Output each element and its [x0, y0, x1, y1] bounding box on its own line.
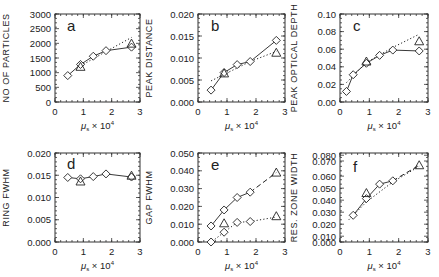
y-tick-label: 0.040 [312, 195, 336, 206]
y-tick-label: 0.020 [170, 9, 194, 20]
y-tick-label: 0.000 [170, 97, 194, 108]
x-tick-label: 3 [425, 246, 430, 257]
diamond-marker [342, 87, 350, 95]
y-tick-label: 0.060 [312, 171, 336, 182]
x-tick-label: 0 [52, 106, 57, 117]
series-line-diamonds [211, 40, 276, 90]
x-tick-label: 3 [282, 106, 287, 117]
y-tick-label: 0.000 [170, 237, 194, 248]
y-tick-label: 0.020 [27, 148, 51, 159]
x-tick-label: 1 [224, 106, 229, 117]
panel-e: 01230.0000.0100.0200.0300.0400.050μs × 1… [144, 148, 288, 273]
x-tick-label: 3 [137, 106, 142, 117]
y-tick-label: 0.010 [170, 53, 194, 64]
markers [349, 161, 424, 220]
plot-area [207, 173, 277, 246]
diamond-marker [102, 170, 110, 178]
y-tick-label: 0.040 [170, 165, 194, 176]
y-tick-label: 0.00 [318, 97, 337, 108]
panel-letter: d [67, 155, 75, 172]
panel-letter: a [67, 17, 76, 34]
markers [342, 37, 423, 96]
diamond-marker [233, 61, 241, 69]
panel-letter: c [353, 17, 361, 34]
x-axis-title: μs × 104 [80, 260, 115, 272]
panel-letter: e [211, 156, 219, 173]
triangle-marker [220, 219, 229, 227]
diamond-marker [220, 228, 228, 236]
y-tick-label: 0.04 [318, 61, 337, 72]
series-line-diamonds [68, 47, 132, 75]
y-tick-label: 0.005 [27, 214, 51, 225]
y-axis-title: NO OF PARTICLES [1, 13, 11, 102]
x-tick-label: 0 [337, 106, 342, 117]
diamond-marker [207, 86, 215, 94]
y-tick-label: 0.010 [170, 219, 194, 230]
plot-area [346, 34, 419, 91]
x-tick-label: 3 [282, 246, 287, 257]
markers [64, 39, 136, 79]
diamond-marker [102, 47, 110, 55]
x-tick-label: 3 [425, 106, 430, 117]
y-tick-label: 0.020 [170, 201, 194, 212]
diamond-marker [89, 52, 97, 60]
y-tick-label: 0.010 [27, 192, 51, 203]
y-tick-label: 0.06 [318, 44, 337, 55]
x-tick-label: 1 [81, 106, 86, 117]
x-tick-label: 1 [81, 246, 86, 257]
panel-letter: f [353, 158, 358, 175]
panel-f: 01230.0000.0100.0200.0300.0400.0500.0600… [289, 150, 431, 272]
x-tick-label: 0 [195, 246, 200, 257]
y-tick-label: 0 [46, 97, 51, 108]
y-tick-label: 0.020 [312, 219, 336, 230]
markers [64, 170, 136, 185]
x-tick-label: 2 [396, 246, 401, 257]
y-tick-label: 1500 [30, 53, 51, 64]
series-line-upper-diamonds [211, 192, 250, 226]
plot-area [349, 165, 419, 220]
y-tick-label: 0.030 [170, 183, 194, 194]
diamond-marker [376, 51, 384, 59]
panel-a: 0123050010001500200025003000μs × 104NO O… [1, 9, 143, 133]
y-axis-title: GAP FWHM [144, 170, 154, 224]
series-line-lower-fit [207, 217, 277, 245]
plot-area [211, 40, 276, 90]
diamond-marker [246, 188, 254, 196]
y-tick-label: 0.050 [170, 148, 194, 159]
x-tick-label: 2 [109, 106, 114, 117]
diamond-marker [207, 238, 215, 246]
y-tick-label: 0.08 [318, 26, 337, 37]
triangle-marker [272, 212, 281, 220]
x-tick-label: 2 [253, 246, 258, 257]
panel-d: 01230.0000.0050.0100.0150.020μs × 104RIN… [1, 148, 143, 273]
y-tick-label: 500 [35, 82, 51, 93]
y-tick-label: 2000 [30, 38, 51, 49]
x-tick-label: 1 [367, 246, 372, 257]
markers [207, 168, 281, 246]
x-axis-title: μs × 104 [224, 120, 259, 132]
y-tick-label: 0.030 [312, 207, 336, 218]
y-tick-label: 0.015 [170, 31, 194, 42]
diamond-marker [415, 47, 423, 55]
y-axis-title: RES. ZONE WIDTH [289, 153, 299, 243]
y-tick-label: 0.010 [312, 231, 336, 242]
series-line-fit [349, 166, 419, 219]
figure: 0123050010001500200025003000μs × 104NO O… [0, 0, 439, 277]
markers [207, 36, 281, 94]
diamond-marker [233, 218, 241, 226]
x-tick-label: 1 [367, 106, 372, 117]
x-axis-title: μs × 104 [367, 260, 402, 272]
x-tick-label: 0 [52, 246, 57, 257]
x-tick-label: 2 [109, 246, 114, 257]
panel-letter: b [211, 17, 219, 34]
y-tick-label: 0.000 [27, 237, 51, 248]
y-tick-label: 1000 [30, 67, 51, 78]
series-line-fit [346, 34, 419, 82]
x-tick-label: 2 [396, 106, 401, 117]
x-tick-label: 0 [337, 246, 342, 257]
x-axis-title: μs × 104 [367, 120, 402, 132]
y-tick-label: 0.015 [27, 170, 51, 181]
y-tick-label: 0.10 [318, 9, 337, 20]
triangle-marker [415, 37, 424, 45]
y-axis-title: RING FWHM [1, 168, 11, 226]
